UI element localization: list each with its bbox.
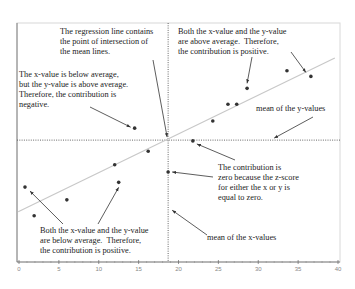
data-point-7: [166, 170, 170, 174]
annotation-regression: The regression line contains the point o…: [60, 27, 153, 57]
data-point-8: [191, 139, 195, 143]
x-tick-label-3: 15: [135, 266, 142, 272]
x-tick-label-7: 35: [295, 266, 302, 272]
data-point-12: [245, 87, 249, 91]
arrow-zero-2: [172, 172, 213, 177]
data-point-1: [32, 214, 36, 218]
arrow-lower-left-1: [30, 191, 63, 224]
arrow-upper-right-1: [247, 57, 252, 83]
data-point-2: [65, 198, 69, 202]
arrow-upper-right-2: [291, 52, 306, 72]
data-point-11: [235, 102, 239, 106]
annotation-mean-y: mean of the y-values: [256, 104, 325, 114]
data-point-9: [211, 119, 215, 123]
data-point-13: [285, 69, 289, 73]
data-point-0: [23, 185, 27, 189]
annotation-mean-x: mean of the x-values: [207, 233, 276, 243]
annotation-upper-right: Both the x-value and the y-value are abo…: [178, 27, 287, 57]
annotation-upper-left: The x-value is below average, but the y-…: [19, 70, 128, 110]
x-tick-label-6: 30: [255, 266, 262, 272]
x-tick-label-4: 20: [175, 266, 182, 272]
arrow-upper-left: [90, 107, 131, 127]
arrow-mean-x: [172, 210, 207, 235]
arrow-zero-1: [197, 144, 235, 160]
annotation-lower-left: Both the x-value and the y-value are bel…: [40, 226, 149, 256]
x-tick-label-2: 10: [95, 266, 102, 272]
x-tick-label-1: 5: [57, 266, 61, 272]
data-point-5: [146, 149, 150, 153]
data-point-3: [113, 163, 117, 167]
data-point-4: [117, 181, 121, 185]
x-tick-label-0: 0: [17, 266, 21, 272]
arrow-regression: [153, 60, 167, 137]
data-point-10: [226, 102, 230, 106]
arrow-lower-left-2: [98, 187, 119, 224]
x-tick-label-5: 25: [215, 266, 222, 272]
x-tick-label-8: 40: [335, 266, 342, 272]
arrow-mean-y: [274, 117, 313, 138]
annotation-zero: The contribution is zero because the z-s…: [218, 163, 299, 203]
data-point-6: [133, 126, 137, 130]
data-point-14: [309, 75, 313, 79]
